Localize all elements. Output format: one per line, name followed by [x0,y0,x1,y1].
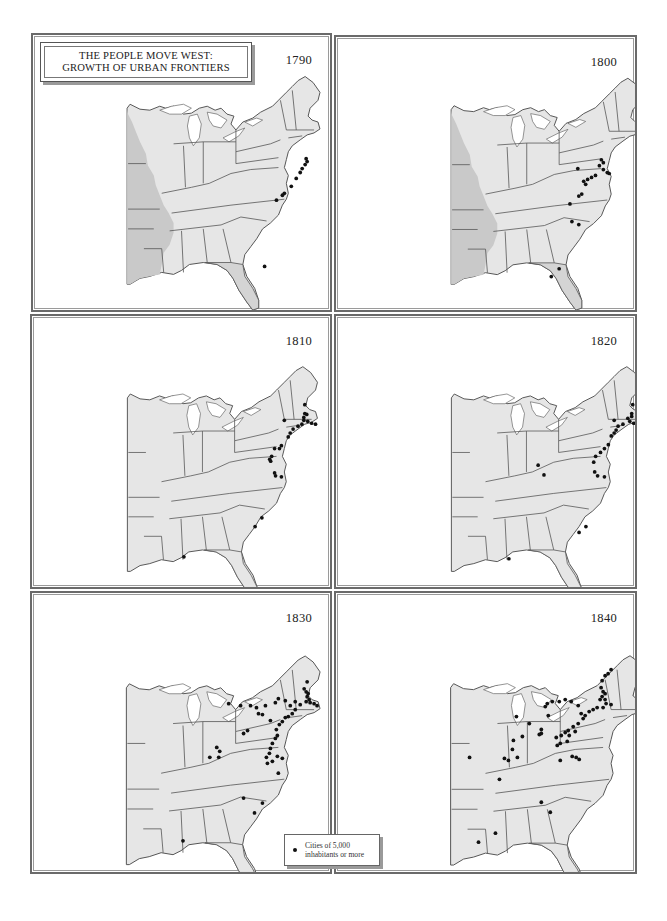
city-dot [550,700,554,704]
city-dot [548,810,552,814]
city-dot [257,712,261,716]
city-dot [511,748,515,752]
city-dot [577,758,581,762]
city-dot [587,710,591,714]
city-dot [543,705,547,709]
city-dot [581,717,585,721]
city-dot [289,184,293,188]
city-dot [242,732,246,736]
map-eastern-us [336,316,635,587]
city-dot [549,275,553,279]
city-dot [314,422,318,426]
city-dot [253,525,257,529]
map-title: THE PEOPLE MOVE WEST: GROWTH OF URBAN FR… [40,42,252,82]
city-dot [557,700,561,704]
legend-line-2: inhabitants or more [305,850,364,859]
city-dot [280,756,284,760]
city-dot [591,708,595,712]
city-dot [557,267,561,271]
city-dot [310,421,314,425]
city-dot [286,435,290,439]
city-dot [612,431,616,435]
year-label: 1800 [591,55,617,70]
city-dot [304,700,308,704]
city-dot [594,174,598,178]
city-dot [586,178,590,182]
city-dot [266,761,270,765]
city-dot [612,418,616,422]
city-dot [303,163,307,167]
city-dot [606,443,610,447]
city-dot [294,177,298,181]
city-dot [603,475,607,479]
city-dot [554,736,558,740]
city-dot [269,719,273,723]
city-dot [278,447,282,451]
city-dot [306,419,310,423]
city-dot [558,759,562,763]
city-dot [296,424,300,428]
city-dot [576,722,580,726]
map-eastern-us [32,593,330,872]
city-dot [570,220,574,224]
city-dot [594,455,598,459]
city-dot [273,701,277,705]
city-dot [598,698,602,702]
city-dot-icon [293,848,297,852]
city-dot [275,754,279,758]
city-dot [269,459,273,463]
city-dot [288,431,292,435]
city-dot [601,161,605,165]
city-dot [253,811,257,815]
city-dot [293,708,297,712]
city-dot [263,265,267,269]
city-dot [239,704,243,708]
city-dot [255,706,259,710]
city-dot [264,704,268,708]
city-dot [539,800,543,804]
city-dot [260,516,264,520]
city-dot [604,702,608,706]
city-dot [249,704,253,708]
city-dot [182,555,186,559]
city-dot [217,755,221,759]
city-dot [293,700,297,704]
city-dot [520,735,524,739]
city-dot [628,419,632,423]
map-eastern-us [32,316,330,587]
city-dot [616,424,620,428]
city-dot [584,182,588,186]
city-dot [507,557,511,561]
city-dot [515,756,519,760]
city-dot [600,679,604,683]
city-dot [584,525,588,529]
city-dot [609,434,613,438]
city-dot [507,759,511,763]
city-dot [269,747,273,751]
city-dot [571,725,575,729]
city-dot [576,704,580,708]
year-label: 1820 [591,334,617,349]
city-dot [277,723,281,727]
city-dot [290,712,294,716]
city-dot [555,744,559,748]
city-dot [308,701,312,705]
city-dot [569,700,573,704]
city-dot [577,531,581,535]
city-dot [261,801,265,805]
city-dot [282,418,286,422]
city-dot [276,697,280,701]
city-dot [590,176,594,180]
map-panel-1800: 1800 [334,35,637,312]
city-dot [577,194,581,198]
city-dot [599,451,603,455]
city-dot [477,840,481,844]
city-dot [273,737,277,741]
city-dot [468,756,472,760]
city-dot [215,746,219,750]
city-dot [227,702,231,706]
city-dot [280,475,284,479]
city-dot [302,418,306,422]
city-dot [601,706,605,710]
city-dot [298,703,302,707]
